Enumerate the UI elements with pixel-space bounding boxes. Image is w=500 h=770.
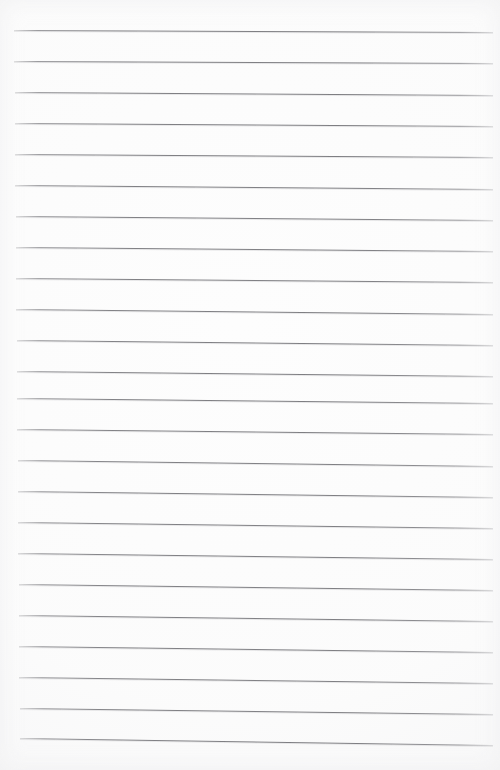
ruled-line	[16, 247, 493, 252]
ruled-line	[19, 615, 493, 622]
ruled-line	[19, 646, 493, 653]
ruled-line	[17, 398, 493, 404]
ruled-line	[20, 708, 493, 715]
ruled-line	[15, 123, 493, 127]
ruled-line	[17, 340, 493, 346]
ruled-line	[14, 61, 493, 64]
ruled-line	[18, 460, 493, 467]
ruled-line	[19, 677, 493, 684]
ruled-line	[16, 216, 493, 221]
lined-paper-sheet	[0, 0, 500, 770]
ruled-line	[15, 185, 493, 190]
ruled-line	[14, 30, 493, 33]
ruled-line	[15, 92, 493, 96]
ruled-line	[18, 522, 493, 529]
ruled-line	[16, 309, 493, 315]
paper-grain-texture	[0, 0, 500, 770]
ruled-line	[17, 429, 493, 435]
ruled-line	[16, 278, 493, 283]
ruled-line	[15, 154, 493, 158]
ruled-line	[20, 738, 493, 746]
page-edge-vignette	[0, 0, 500, 770]
ruled-line	[17, 371, 493, 377]
ruled-line	[19, 584, 493, 591]
ruled-line	[18, 491, 493, 498]
ruled-line-group	[0, 0, 500, 770]
ruled-line	[18, 553, 493, 560]
